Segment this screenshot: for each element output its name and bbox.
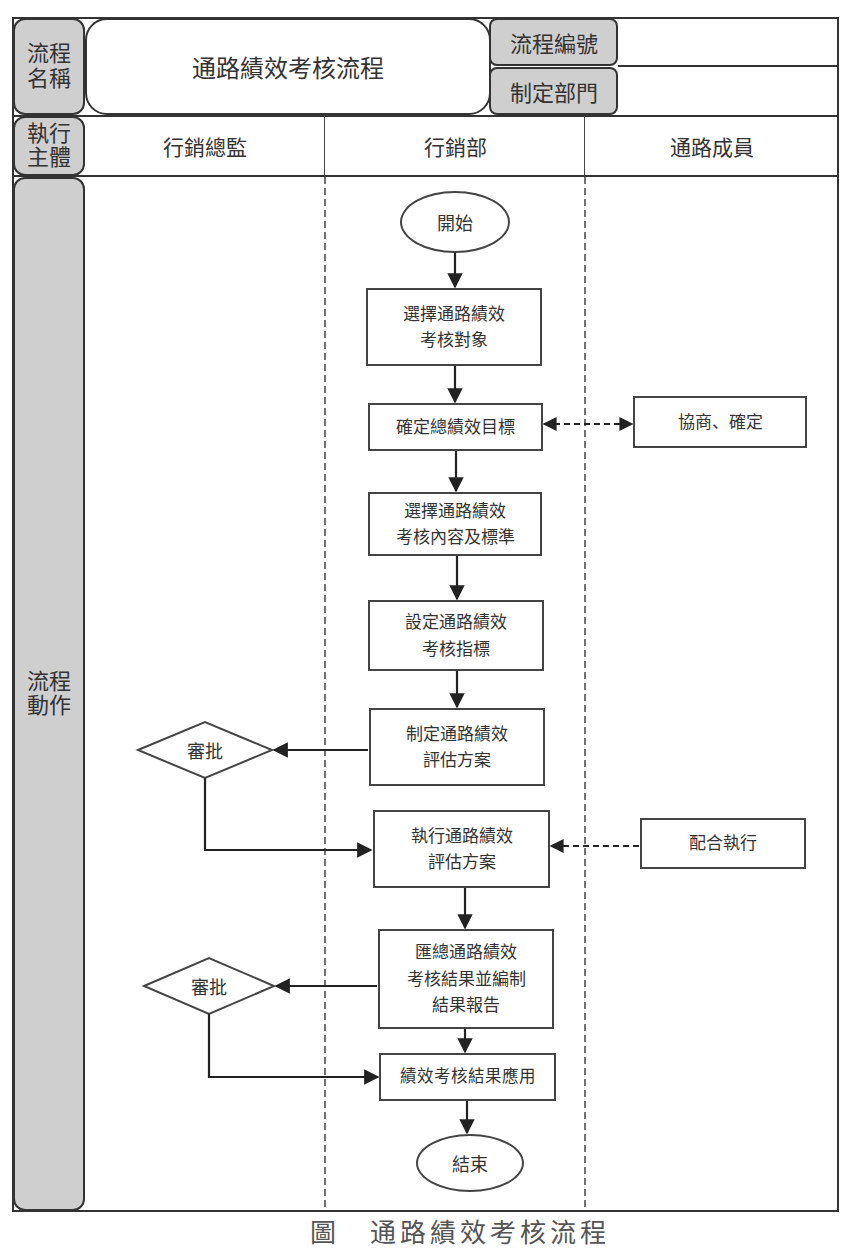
department-label: 制定部門 <box>489 67 618 115</box>
member-step-cooperate-execute: 配合執行 <box>640 818 806 869</box>
executor-label: 執行 主體 <box>13 116 85 176</box>
step-draft-evaluation-plan: 制定通路績效 評估方案 <box>369 708 545 786</box>
lanes-divider <box>12 175 839 177</box>
process-number-label: 流程編號 <box>489 18 618 66</box>
member-step-negotiate-confirm: 協商、確定 <box>633 396 807 448</box>
lane-header-channel-members: 通路成員 <box>585 116 838 176</box>
step-compile-report: 匯總通路績效 考核結果並編制 結果報告 <box>378 929 554 1029</box>
step-select-target: 選擇通路績效 考核對象 <box>366 288 542 366</box>
process-name-label: 流程 名稱 <box>13 18 85 115</box>
decision-approve-plan: 審批 <box>165 735 245 765</box>
process-number-value <box>618 18 838 66</box>
department-value <box>618 67 838 115</box>
flow-action-label: 流程 動作 <box>13 177 85 1211</box>
figure-caption: 圖 通路績效考核流程 <box>260 1212 660 1242</box>
lane-header-divider-1 <box>324 116 325 176</box>
step-set-indicators: 設定通路績效 考核指標 <box>368 600 544 671</box>
lane-header-marketing-director: 行銷總監 <box>85 116 325 176</box>
process-name-title: 通路績效考核流程 <box>85 18 491 115</box>
step-confirm-goal: 確定總績效目標 <box>368 403 543 451</box>
end-terminator: 結束 <box>416 1134 524 1192</box>
lane-header-marketing-dept: 行銷部 <box>325 116 585 176</box>
lane-header-divider-2 <box>584 116 585 176</box>
start-terminator: 開始 <box>400 191 510 253</box>
step-execute-evaluation-plan: 執行通路績效 評估方案 <box>373 810 550 888</box>
step-select-content-standards: 選擇通路績效 考核內容及標準 <box>368 492 542 556</box>
step-apply-results: 績效考核結果應用 <box>379 1053 556 1101</box>
decision-approve-report: 審批 <box>169 971 249 1001</box>
